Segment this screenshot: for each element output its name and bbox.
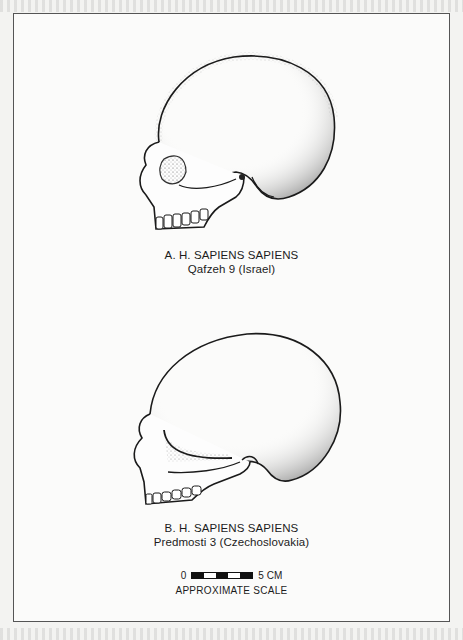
scale-bar: 0 5 CM APPROXIMATE SCALE — [14, 569, 449, 596]
specimen-a-title: A. H. SAPIENS SAPIENS — [14, 248, 449, 262]
scale-segment — [240, 573, 252, 578]
page-bleed-bottom — [0, 628, 463, 640]
scale-end-label: 5 CM — [258, 570, 282, 581]
specimen-a: A. H. SAPIENS SAPIENS Qafzeh 9 (Israel) — [14, 14, 449, 304]
scale-row: 0 5 CM — [14, 569, 449, 581]
specimen-b: B. H. SAPIENS SAPIENS Predmosti 3 (Czech… — [14, 304, 449, 544]
figure-frame: A. H. SAPIENS SAPIENS Qafzeh 9 (Israel) — [13, 13, 450, 622]
specimen-a-label: A. H. SAPIENS SAPIENS Qafzeh 9 (Israel) — [14, 248, 449, 276]
specimen-a-site: Qafzeh 9 (Israel) — [14, 262, 449, 276]
specimen-b-label: B. H. SAPIENS SAPIENS Predmosti 3 (Czech… — [14, 521, 449, 549]
skull-predmosti-3-icon — [122, 322, 352, 517]
page-bleed-top — [0, 0, 463, 12]
skull-qafzeh-9-icon — [124, 47, 349, 242]
scale-segment — [192, 573, 204, 578]
scale-segment — [228, 573, 240, 578]
scale-segment — [204, 573, 216, 578]
specimen-b-title: B. H. SAPIENS SAPIENS — [14, 521, 449, 535]
specimen-b-site: Predmosti 3 (Czechoslovakia) — [14, 535, 449, 549]
scale-bar-graphic — [191, 572, 253, 579]
scale-segment — [216, 573, 228, 578]
scale-start-label: 0 — [181, 570, 187, 581]
scale-caption: APPROXIMATE SCALE — [14, 585, 449, 596]
